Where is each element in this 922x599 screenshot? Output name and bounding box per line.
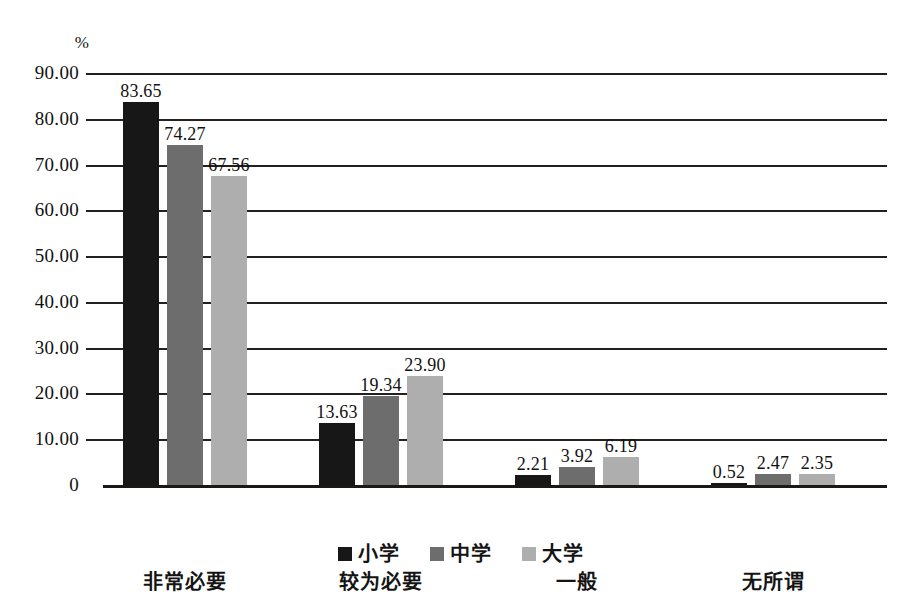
bar-value-label: 67.56 xyxy=(208,156,250,175)
bar[interactable]: 0.52 xyxy=(711,483,747,485)
bar-value-label: 2.21 xyxy=(517,455,549,474)
legend-swatch-icon xyxy=(430,547,444,561)
y-axis-tick-mark xyxy=(86,302,103,304)
bar[interactable]: 19.34 xyxy=(363,396,399,485)
legend-label: 中学 xyxy=(450,543,492,565)
y-axis-tick-label: 10.00 xyxy=(3,429,79,448)
bar-value-label: 23.90 xyxy=(404,356,446,375)
x-axis-category-label: 一般 xyxy=(477,570,677,594)
y-axis-tick-mark xyxy=(86,73,103,75)
legend-label: 大学 xyxy=(542,543,584,565)
y-axis-tick-mark xyxy=(86,165,103,167)
y-axis-unit-label: % xyxy=(62,33,102,53)
y-axis-tick-label: 40.00 xyxy=(3,292,79,311)
bar-value-label: 2.47 xyxy=(757,454,789,473)
plot-area: 90.0080.0070.0060.0050.0040.0030.0020.00… xyxy=(103,73,887,485)
legend-swatch-icon xyxy=(522,547,536,561)
bar-value-label: 2.35 xyxy=(801,454,833,473)
bar[interactable]: 83.65 xyxy=(123,102,159,485)
bar[interactable]: 2.21 xyxy=(515,475,551,485)
gridline xyxy=(103,73,887,75)
y-axis-tick-label: 90.00 xyxy=(3,63,79,82)
y-axis-tick-label: 20.00 xyxy=(3,383,79,402)
bar[interactable]: 2.47 xyxy=(755,474,791,485)
x-axis-category-label: 非常必要 xyxy=(85,570,285,594)
y-axis-tick-label: 60.00 xyxy=(3,200,79,219)
gridline xyxy=(103,119,887,121)
bar[interactable]: 13.63 xyxy=(319,423,355,485)
x-axis-category-label: 无所谓 xyxy=(673,570,873,594)
y-axis-tick-label: 50.00 xyxy=(3,246,79,265)
bar[interactable]: 3.92 xyxy=(559,467,595,485)
bar-value-label: 74.27 xyxy=(164,125,206,144)
x-axis-category-label: 较为必要 xyxy=(281,570,481,594)
bar-value-label: 0.52 xyxy=(713,463,745,482)
legend-label: 小学 xyxy=(358,543,400,565)
bar-chart-figure: % 90.0080.0070.0060.0050.0040.0030.0020.… xyxy=(0,0,922,599)
legend-item[interactable]: 中学 xyxy=(430,543,492,565)
y-axis-tick-label: 0 xyxy=(3,475,79,494)
y-axis-tick-mark xyxy=(86,439,103,441)
bar[interactable]: 74.27 xyxy=(167,145,203,485)
chart-legend: 小学中学大学 xyxy=(0,543,922,565)
bar[interactable]: 23.90 xyxy=(407,376,443,485)
y-axis-tick-label: 80.00 xyxy=(3,109,79,128)
x-axis-baseline xyxy=(103,485,887,488)
bar[interactable]: 6.19 xyxy=(603,457,639,485)
bar[interactable]: 67.56 xyxy=(211,176,247,485)
legend-swatch-icon xyxy=(338,547,352,561)
legend-item[interactable]: 小学 xyxy=(338,543,400,565)
bar-value-label: 6.19 xyxy=(605,437,637,456)
bar-value-label: 13.63 xyxy=(316,403,358,422)
y-axis-tick-mark xyxy=(86,348,103,350)
y-axis-tick-mark xyxy=(86,393,103,395)
bar-value-label: 19.34 xyxy=(360,376,402,395)
y-axis-tick-mark xyxy=(86,210,103,212)
bar[interactable]: 2.35 xyxy=(799,474,835,485)
bar-value-label: 3.92 xyxy=(561,447,593,466)
y-axis-tick-mark xyxy=(86,256,103,258)
y-axis-tick-label: 70.00 xyxy=(3,155,79,174)
y-axis-tick-label: 30.00 xyxy=(3,338,79,357)
y-axis-tick-mark xyxy=(86,119,103,121)
bar-value-label: 83.65 xyxy=(120,82,162,101)
legend-item[interactable]: 大学 xyxy=(522,543,584,565)
